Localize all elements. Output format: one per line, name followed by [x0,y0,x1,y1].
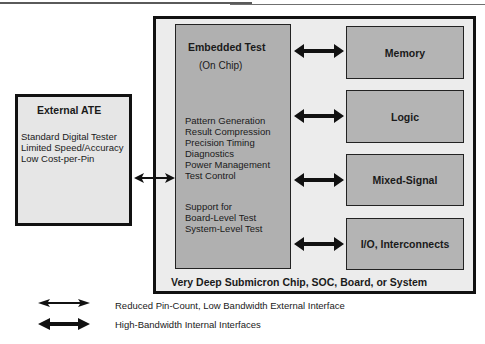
embedded-test-box: Embedded Test (On Chip) Pattern Generati… [175,24,291,269]
system-container-label: Very Deep Submicron Chip, SOC, Board, or… [171,276,427,288]
logic-block: Logic [346,90,464,143]
thick-double-arrow-icon [294,237,344,251]
legend-label-internal: High-Bandwidth Internal Interfaces [115,319,261,330]
embedded-function: Result Compression [185,126,271,137]
embedded-function: Diagnostics [185,148,234,159]
thick-double-arrow-icon [294,109,344,123]
legend-thin-arrow-icon [38,299,90,307]
mixed-signal-block: Mixed-Signal [346,154,464,206]
embedded-support: Board-Level Test [185,212,256,223]
memory-label: Memory [385,47,425,59]
embedded-function: Test Control [185,170,236,181]
thick-double-arrow-icon [294,44,344,58]
external-ate-line: Low Cost-per-Pin [21,153,94,164]
embedded-function: Power Management [185,159,270,170]
io-interconnects-block: I/O, Interconnects [346,218,464,270]
io-interconnects-label: I/O, Interconnects [361,238,450,250]
embedded-test-subtitle: (On Chip) [199,60,242,71]
logic-label: Logic [391,111,419,123]
thin-double-arrow-icon [134,173,175,183]
legend-thick-arrow-icon [38,318,90,330]
thick-double-arrow-icon [294,173,344,187]
header-rule [0,2,252,4]
external-ate-line: Standard Digital Tester [21,131,117,142]
embedded-support: Support for [185,201,232,212]
mixed-signal-label: Mixed-Signal [373,174,438,186]
embedded-function: Precision Timing [185,137,255,148]
external-ate-box: External ATE Standard Digital Tester Lim… [15,94,132,226]
external-ate-line: Limited Speed/Accuracy [21,142,123,153]
legend-label-external: Reduced Pin-Count, Low Bandwidth Externa… [115,300,345,311]
embedded-test-title: Embedded Test [188,41,265,53]
embedded-support: System-Level Test [185,223,262,234]
external-ate-title: External ATE [37,104,101,116]
header-rule-right [230,4,485,5]
embedded-function: Pattern Generation [185,115,265,126]
memory-block: Memory [346,26,464,79]
